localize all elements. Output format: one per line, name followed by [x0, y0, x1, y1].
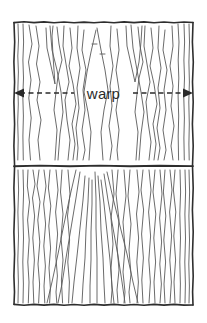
- warp-label: warp: [86, 85, 120, 102]
- frame-left-edge: [14, 23, 15, 305]
- fabric-divider-line: [14, 166, 193, 167]
- weave-diagram-canvas: warp: [0, 0, 207, 323]
- frame-right-edge: [192, 23, 193, 306]
- frame-bottom-edge: [14, 304, 193, 305]
- weave-diagram-figure: warp: [0, 0, 207, 323]
- frame-top-edge: [14, 22, 193, 23]
